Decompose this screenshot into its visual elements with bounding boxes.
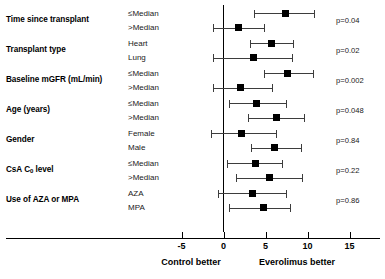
confidence-interval-cap-low [229,204,230,212]
point-estimate-marker [249,190,256,197]
confidence-interval-cap-high [290,204,291,212]
forest-plot: Time since transplantTransplant typeBase… [0,0,385,279]
point-estimate-marker [273,114,280,121]
confidence-interval-row [0,143,385,154]
axis-tick-label: 15 [344,242,354,251]
p-value: p=0.84 [336,137,359,145]
confidence-interval-cap-low [218,190,219,198]
confidence-interval-cap-low [229,100,230,108]
confidence-interval-cap-high [286,100,287,108]
confidence-interval-cap-low [254,10,255,18]
confidence-interval-cap-low [264,70,265,78]
p-value: p=0.04 [336,17,359,25]
confidence-interval-cap-high [293,40,294,48]
confidence-interval-cap-high [264,24,265,32]
confidence-interval-cap-high [314,10,315,18]
point-estimate-marker [252,160,259,167]
point-estimate-marker [260,204,267,211]
confidence-interval-row [0,113,385,124]
confidence-interval-cap-low [211,130,212,138]
confidence-interval-cap-low [250,40,251,48]
axis-tick-label: 0 [221,242,226,251]
point-estimate-marker [271,144,278,151]
point-estimate-marker [253,100,260,107]
confidence-interval-cap-low [248,114,249,122]
confidence-interval-cap-low [227,160,228,168]
p-value: p=0.22 [336,167,359,175]
p-value: p=0.86 [336,197,359,205]
confidence-interval-row [0,158,385,169]
x-axis-line [6,238,380,239]
axis-tick [308,232,309,238]
axis-tick [182,232,183,238]
confidence-interval-cap-high [292,54,293,62]
axis-caption-left: Control better [161,258,221,267]
confidence-interval-row [0,68,385,79]
p-value: p=0.048 [336,107,364,115]
confidence-interval-cap-high [301,144,302,152]
confidence-interval-cap-high [304,114,305,122]
confidence-interval-row [0,83,385,94]
confidence-interval-row [0,173,385,184]
confidence-interval-row [0,128,385,139]
point-estimate-marker [235,24,242,31]
confidence-interval-cap-low [251,144,252,152]
p-value: p=0.02 [336,47,359,55]
point-estimate-marker [282,10,289,17]
axis-tick-label: -5 [177,242,185,251]
confidence-interval-row [0,98,385,109]
confidence-interval-cap-high [313,70,314,78]
confidence-interval-cap-low [213,24,214,32]
point-estimate-marker [238,130,245,137]
confidence-interval-row [0,53,385,64]
confidence-interval-row [0,203,385,214]
axis-caption-right: Everolimus better [259,258,335,267]
confidence-interval-row [0,23,385,34]
confidence-interval-cap-low [213,84,214,92]
point-estimate-marker [266,174,273,181]
point-estimate-marker [237,84,244,91]
axis-tick [266,232,267,238]
confidence-interval-cap-high [276,130,277,138]
confidence-interval-cap-high [282,160,283,168]
confidence-interval-cap-high [286,190,287,198]
axis-tick-label: 5 [263,242,268,251]
confidence-interval-cap-low [236,174,237,182]
axis-tick [224,232,225,238]
confidence-interval-cap-low [213,54,214,62]
p-value: p=0.002 [336,77,364,85]
confidence-interval-row [0,38,385,49]
point-estimate-marker [250,54,257,61]
confidence-interval-row [0,8,385,19]
confidence-interval-cap-high [272,84,273,92]
point-estimate-marker [268,40,275,47]
confidence-interval-row [0,188,385,199]
confidence-interval-cap-high [302,174,303,182]
axis-tick-label: 10 [302,242,312,251]
point-estimate-marker [284,70,291,77]
axis-tick [350,232,351,238]
